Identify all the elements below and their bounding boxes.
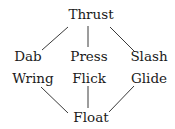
node-thrust: Thrust bbox=[68, 8, 113, 22]
node-flick: Flick bbox=[72, 72, 106, 86]
node-glide: Glide bbox=[131, 72, 167, 86]
edge-glide-float bbox=[109, 86, 134, 112]
edge-thrust-dab bbox=[42, 27, 68, 50]
node-slash: Slash bbox=[130, 50, 167, 64]
node-float: Float bbox=[73, 111, 108, 125]
node-dab: Dab bbox=[14, 50, 42, 64]
node-press: Press bbox=[70, 50, 107, 64]
effort-diagram: Thrust Dab Press Slash Wring Flick Glide… bbox=[0, 0, 175, 129]
edge-wring-float bbox=[41, 87, 68, 113]
node-wring: Wring bbox=[12, 72, 53, 86]
